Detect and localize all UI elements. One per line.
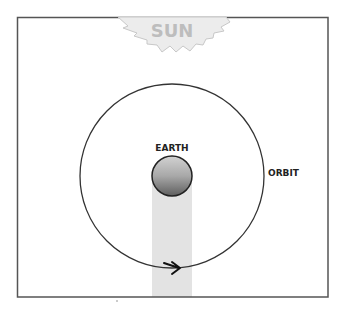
earth-label: EARTH bbox=[155, 143, 188, 153]
earth-icon bbox=[152, 156, 192, 196]
diagram-canvas: SUN EARTH ORBIT bbox=[0, 0, 344, 310]
sun-label: SUN bbox=[151, 20, 194, 41]
stray-dot bbox=[116, 300, 118, 302]
orbit-label: ORBIT bbox=[268, 168, 300, 178]
sun-icon: SUN bbox=[118, 17, 230, 52]
